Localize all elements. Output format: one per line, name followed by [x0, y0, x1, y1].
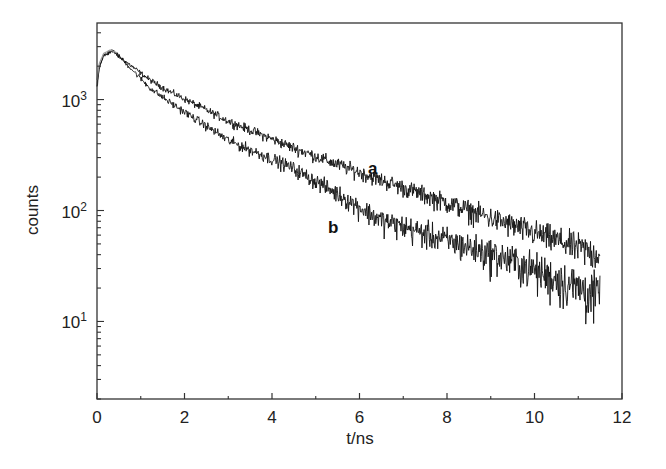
plot-frame — [97, 23, 622, 399]
y-axis-title: counts — [23, 185, 42, 235]
series-label-a: a — [368, 159, 378, 178]
x-tick-label: 4 — [267, 408, 276, 427]
plot-area — [97, 50, 600, 324]
x-tick-label: 6 — [355, 408, 364, 427]
x-tick-label: 0 — [92, 408, 101, 427]
x-tick-label: 2 — [180, 408, 189, 427]
x-tick-label: 12 — [613, 408, 632, 427]
decay-chart: 024681012 101102103 t/ns counts ab — [0, 0, 666, 469]
y-tick-label: 101 — [61, 310, 87, 332]
x-tick-label: 10 — [525, 408, 544, 427]
series-label-b: b — [328, 218, 338, 237]
y-tick-label: 102 — [61, 200, 87, 222]
series-a-line — [97, 50, 600, 268]
x-tick-label: 8 — [442, 408, 451, 427]
series-b-line — [97, 50, 600, 324]
x-axis: 024681012 — [92, 393, 631, 427]
y-tick-label: 103 — [61, 89, 87, 111]
x-axis-title: t/ns — [346, 429, 373, 448]
